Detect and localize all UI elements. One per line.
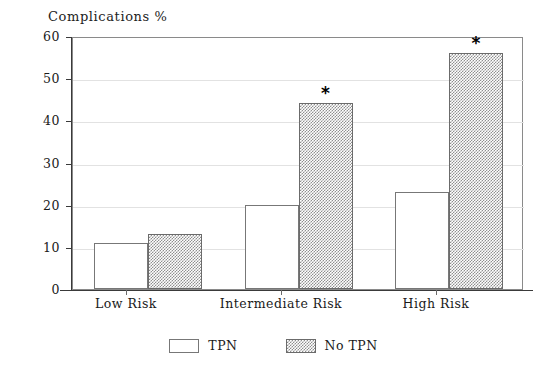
legend-item-no-tpn: No TPN bbox=[286, 338, 378, 353]
y-tick-label-0: 0 bbox=[26, 282, 60, 297]
bar-intermediate-risk-no-tpn bbox=[299, 103, 353, 289]
significance-star-high: * bbox=[471, 35, 480, 52]
legend-item-tpn: TPN bbox=[169, 338, 237, 353]
complications-bar-chart: Complications % * * 60 50 40 30 20 10 0 bbox=[0, 0, 547, 373]
bar-intermediate-risk-tpn bbox=[245, 205, 299, 289]
legend-label-tpn: TPN bbox=[208, 338, 237, 353]
y-tick-30 bbox=[66, 164, 72, 165]
x-tick-intermediate-risk bbox=[281, 290, 282, 295]
x-axis-line bbox=[60, 290, 533, 291]
bar-low-risk-no-tpn bbox=[148, 234, 202, 289]
y-tick-20 bbox=[66, 206, 72, 207]
significance-star-intermediate: * bbox=[321, 85, 330, 102]
y-tick-label-40: 40 bbox=[26, 113, 60, 128]
x-tick-label-intermediate-risk: Intermediate Risk bbox=[201, 296, 361, 311]
y-tick-label-20: 20 bbox=[26, 198, 60, 213]
x-tick-high-risk bbox=[436, 290, 437, 295]
hatched-swatch bbox=[286, 339, 316, 353]
plot-area: * * bbox=[72, 37, 523, 290]
y-tick-10 bbox=[66, 248, 72, 249]
x-tick-low-risk bbox=[126, 290, 127, 295]
y-tick-label-10: 10 bbox=[26, 240, 60, 255]
y-tick-60 bbox=[66, 37, 72, 38]
y-tick-50 bbox=[66, 79, 72, 80]
y-tick-label-60: 60 bbox=[26, 29, 60, 44]
y-tick-40 bbox=[66, 121, 72, 122]
bar-high-risk-tpn bbox=[395, 192, 449, 289]
y-tick-label-30: 30 bbox=[26, 156, 60, 171]
legend-label-no-tpn: No TPN bbox=[325, 338, 378, 353]
chart-legend: TPN No TPN bbox=[0, 338, 547, 353]
chart-title: Complications % bbox=[48, 9, 168, 24]
bar-high-risk-no-tpn bbox=[449, 53, 503, 289]
x-tick-label-high-risk: High Risk bbox=[376, 296, 496, 311]
bar-low-risk-tpn bbox=[94, 243, 148, 289]
hollow-swatch bbox=[169, 339, 199, 353]
x-tick-label-low-risk: Low Risk bbox=[66, 296, 186, 311]
y-tick-label-50: 50 bbox=[26, 71, 60, 86]
